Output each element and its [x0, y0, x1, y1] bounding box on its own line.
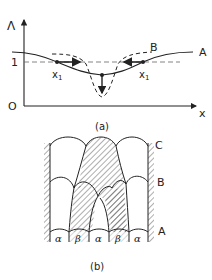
x1-left-label: x1 [52, 69, 62, 82]
y-tick-label-1: 1 [11, 56, 18, 69]
caption-a: (a) [95, 121, 109, 132]
curve-A-label: A [199, 46, 207, 59]
figure-canvas: Λ O 1 x A B x1 x1 (a) [0, 0, 212, 280]
hatched-grain-beta-left [70, 186, 96, 232]
figure-b: C B A α β α β α (b) [44, 137, 166, 272]
layer-label-C: C [155, 139, 163, 152]
curve-B-label: B [150, 41, 158, 54]
hatched-grain-beta-right [104, 188, 128, 232]
phase-label-alpha-2: α [95, 233, 102, 244]
phase-label-alpha-3: α [134, 233, 141, 244]
phase-label-alpha-1: α [55, 233, 62, 244]
phase-label-beta-2: β [114, 233, 121, 244]
x1-right-label: x1 [139, 69, 149, 82]
phase-label-beta-1: β [74, 233, 81, 244]
origin-label: O [8, 100, 17, 113]
caption-b: (b) [90, 261, 104, 272]
layer-A-boundary [50, 229, 148, 232]
layer-label-A: A [158, 225, 166, 238]
hatched-grain-right-wall [148, 143, 154, 242]
y-axis-label: Λ [7, 19, 16, 33]
figure-a: Λ O 1 x A B x1 x1 (a) [7, 19, 207, 132]
x-axis-label: x [199, 107, 206, 120]
layer-label-B: B [157, 176, 165, 189]
curve-A [12, 52, 193, 75]
hatched-grain-left-wall [44, 143, 50, 242]
